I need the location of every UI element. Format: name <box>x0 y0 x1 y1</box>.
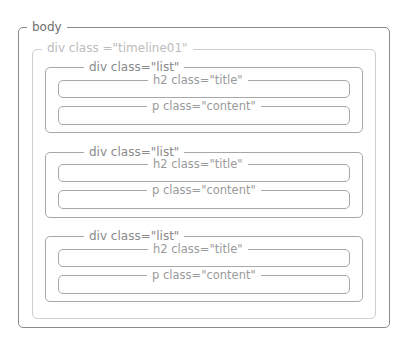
title-label: h2 class="title" <box>148 242 248 256</box>
content-label: p class="content" <box>147 268 261 282</box>
content-label: p class="content" <box>147 183 261 197</box>
content-label: p class="content" <box>147 99 261 113</box>
timeline-label: div class ="timeline01" <box>42 41 193 55</box>
list-label: div class="list" <box>84 229 184 243</box>
list-label: div class="list" <box>84 60 184 74</box>
body-label: body <box>27 20 67 34</box>
title-label: h2 class="title" <box>148 73 248 87</box>
title-label: h2 class="title" <box>148 157 248 171</box>
